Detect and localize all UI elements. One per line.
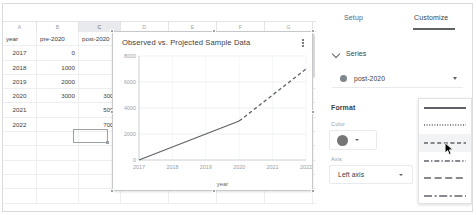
cell[interactable]: 3000: [37, 89, 79, 102]
line-style-option-long-dash-dot[interactable]: [419, 187, 471, 205]
axis-label: Axis: [331, 156, 342, 162]
line-style-option-dotted[interactable]: [419, 117, 471, 135]
series-section-header[interactable]: Series: [332, 49, 366, 57]
chevron-down-icon: [332, 49, 340, 57]
panel-tabs: Setup Customize: [325, 14, 472, 34]
cell[interactable]: [37, 103, 79, 116]
x-axis-tick-label: 2021: [267, 164, 279, 170]
chevron-down-icon: [355, 139, 359, 141]
tab-customize[interactable]: Customize: [414, 14, 448, 21]
cell[interactable]: 2022: [3, 118, 37, 131]
cell[interactable]: 2018: [3, 61, 37, 74]
x-axis-tick-label: 2019: [200, 164, 212, 170]
line-style-preview-dash-dot: [424, 159, 466, 163]
color-label: Color: [331, 121, 345, 127]
line-style-preview-dotted: [424, 123, 466, 127]
cell[interactable]: 1000: [37, 61, 79, 74]
axis-dropdown[interactable]: Left axis: [329, 165, 413, 184]
column-header-a[interactable]: A: [3, 22, 37, 32]
line-style-option-solid[interactable]: [419, 99, 471, 117]
resize-handle-top-center[interactable]: [212, 29, 216, 33]
cell[interactable]: [37, 189, 79, 202]
cell[interactable]: 0: [37, 46, 79, 59]
x-axis-tick-label: 2017: [133, 164, 145, 170]
cell[interactable]: 2019: [3, 75, 37, 88]
line-style-option-dashed-short[interactable]: [419, 134, 471, 152]
color-swatch-icon: [337, 135, 348, 146]
cell[interactable]: 2021: [3, 103, 37, 116]
cell[interactable]: [3, 146, 37, 159]
cell[interactable]: year: [3, 32, 37, 45]
y-axis-tick-label: 6000: [124, 79, 136, 85]
series-dropdown[interactable]: post-2020: [332, 70, 463, 88]
cell[interactable]: 2017: [3, 46, 37, 59]
chevron-down-icon: [399, 174, 403, 176]
active-tab-indicator: [413, 28, 455, 30]
chart-editor-panel: Setup Customize Series post-2020 Format …: [325, 4, 472, 211]
line-style-preview-dashed-long: [424, 176, 466, 180]
cell[interactable]: [37, 146, 79, 159]
line-style-dropdown-menu[interactable]: [418, 98, 472, 204]
google-sheets-chart-editor: ABCDEFG yearpre-2020post-202020170201810…: [0, 0, 476, 215]
cell[interactable]: pre-2020: [37, 32, 79, 45]
cell[interactable]: [3, 189, 37, 202]
format-label: Format: [331, 104, 355, 111]
x-axis-tick-label: 2018: [166, 164, 178, 170]
cell[interactable]: [3, 161, 37, 174]
line-style-preview-long-dash-dot: [424, 194, 466, 198]
line-style-option-dash-dot[interactable]: [419, 152, 471, 170]
fill-handle[interactable]: [106, 141, 109, 144]
y-axis-tick-label: 4000: [124, 105, 136, 111]
x-axis-tick-label: 2020: [233, 164, 245, 170]
series-selected-label: post-2020: [354, 75, 385, 82]
x-axis-tick-label: 2022: [300, 164, 312, 170]
line-style-preview-dashed-short: [424, 141, 466, 145]
chart-series-pre-2020: [139, 121, 239, 160]
kebab-menu-icon[interactable]: [299, 36, 307, 50]
resize-handle-top-right[interactable]: [311, 29, 315, 33]
chart-object[interactable]: Observed vs. Projected Sample Data 02000…: [112, 31, 313, 191]
chart-title: Observed vs. Projected Sample Data: [122, 38, 250, 47]
cell[interactable]: [37, 161, 79, 174]
cell[interactable]: 2000: [37, 75, 79, 88]
cell[interactable]: [3, 175, 37, 188]
column-header-b[interactable]: B: [37, 22, 79, 32]
cell[interactable]: [37, 175, 79, 188]
resize-handle-top-left[interactable]: [110, 29, 114, 33]
chevron-down-icon[interactable]: [453, 77, 457, 80]
tab-setup[interactable]: Setup: [344, 14, 363, 21]
y-axis-tick-label: 8000: [124, 53, 136, 59]
y-axis-tick-label: 2000: [124, 131, 136, 137]
cell[interactable]: [3, 132, 37, 145]
y-axis-tick-label: 0: [133, 157, 136, 163]
series-section-label: Series: [346, 50, 366, 57]
axis-selected-label: Left axis: [338, 171, 364, 178]
x-axis-title: year: [217, 181, 228, 187]
chart-plot-area: 0200040006000800020172018201920202021202…: [113, 50, 314, 192]
line-style-option-dashed-long[interactable]: [419, 169, 471, 187]
color-picker-button[interactable]: [329, 130, 377, 150]
series-color-dot-icon: [340, 75, 347, 82]
line-style-preview-solid: [424, 106, 466, 110]
cell[interactable]: 2020: [3, 89, 37, 102]
selected-cell[interactable]: [73, 129, 108, 143]
chart-svg: 0200040006000800020172018201920202021202…: [113, 50, 314, 192]
